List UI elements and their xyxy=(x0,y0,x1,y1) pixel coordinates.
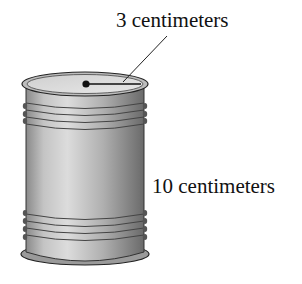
can-illustration xyxy=(0,0,302,284)
height-label: 10 centimeters xyxy=(152,176,275,197)
can-body xyxy=(26,84,144,261)
center-point xyxy=(82,80,89,87)
radius-label: 3 centimeters xyxy=(116,10,229,31)
radius-leader-line xyxy=(123,36,167,82)
